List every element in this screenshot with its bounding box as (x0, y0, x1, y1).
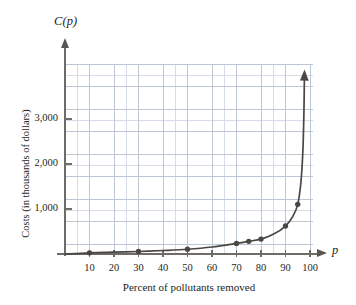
data-point (283, 223, 288, 228)
data-point-markers (87, 202, 301, 256)
figure-canvas: C(p) p Costs (in thousands of dollars) P… (0, 0, 356, 305)
cost-vs-pollutant-chart: C(p) p Costs (in thousands of dollars) P… (0, 0, 356, 305)
data-point (136, 249, 141, 254)
curve-arrow-icon (300, 70, 309, 81)
data-point (87, 250, 92, 255)
cost-curve (65, 81, 304, 255)
data-point (185, 247, 190, 252)
curve-layer (0, 0, 356, 305)
data-point (295, 202, 300, 207)
data-point (234, 241, 239, 246)
data-point (246, 239, 251, 244)
data-point (258, 236, 263, 241)
